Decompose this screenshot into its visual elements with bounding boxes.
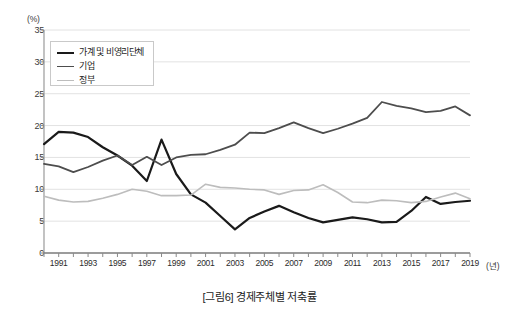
legend-label-government: 정부 <box>79 76 94 85</box>
legend-item-households: 가계 및 비영리단체 <box>57 46 148 59</box>
series-line-0 <box>44 132 470 229</box>
legend-label-households: 가계 및 비영리단체 <box>79 48 144 57</box>
legend-swatch-government <box>57 80 74 81</box>
chart-legend: 가계 및 비영리단체 기업 정부 <box>50 41 154 86</box>
legend-item-government: 정부 <box>57 74 148 87</box>
legend-label-corporations: 기업 <box>79 62 94 71</box>
series-line-2 <box>44 184 470 202</box>
figure-caption: [그림6] 경제주체별 저축률 <box>0 288 519 304</box>
series-line-1 <box>44 102 470 172</box>
legend-swatch-households <box>57 52 74 54</box>
legend-item-corporations: 기업 <box>57 60 148 73</box>
chart-figure: (%) 35302520151050 199119931995199719992… <box>0 0 519 318</box>
x-axis-unit-label: (년) <box>486 259 500 271</box>
legend-swatch-corporations <box>57 66 74 67</box>
